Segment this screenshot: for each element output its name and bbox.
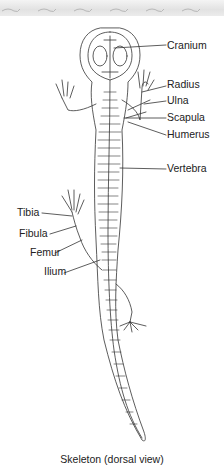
right-forelimb xyxy=(122,82,148,120)
label-cranium: Cranium xyxy=(167,39,207,51)
leader-tibia xyxy=(42,213,72,216)
leader-vertebra xyxy=(120,168,166,169)
label-ulna: Ulna xyxy=(167,94,189,106)
right-hindlimb xyxy=(116,284,132,322)
label-vertebra: Vertebra xyxy=(167,162,207,174)
left-forelimb xyxy=(62,98,96,111)
leader-ilium xyxy=(64,260,100,273)
label-fibula: Fibula xyxy=(19,227,48,239)
figure-caption: Skeleton (dorsal view) xyxy=(0,453,224,465)
leader-radius xyxy=(142,86,166,92)
label-humerus: Humerus xyxy=(167,128,210,140)
label-radius: Radius xyxy=(167,78,200,90)
label-tibia: Tibia xyxy=(17,206,39,218)
leader-humerus xyxy=(128,122,166,135)
label-scapula: Scapula xyxy=(167,111,205,123)
leader-fibula xyxy=(50,226,76,234)
label-ilium: Ilium xyxy=(44,265,66,277)
label-femur: Femur xyxy=(30,246,60,258)
body-outline xyxy=(80,28,145,441)
spine xyxy=(108,80,142,438)
